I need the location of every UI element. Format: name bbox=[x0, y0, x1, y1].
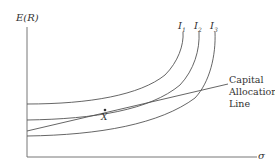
curve-label-i3: I3 bbox=[210, 21, 218, 33]
curve-label-i2: I2 bbox=[194, 21, 202, 33]
curve-label-subscript: 1 bbox=[182, 26, 186, 33]
indifference-curve-3 bbox=[27, 32, 215, 136]
indifference-curve-1 bbox=[27, 32, 183, 104]
capital-allocation-line bbox=[27, 84, 228, 131]
tangency-point bbox=[104, 109, 107, 112]
cal-label-line-3: Line bbox=[229, 98, 275, 110]
cal-label-line-1: Capital bbox=[229, 74, 275, 86]
curve-label-i1: I1 bbox=[178, 21, 186, 33]
curve-label-subscript: 2 bbox=[198, 26, 202, 33]
indifference-curve-diagram: E(R) σ I1 I2 I3 Capital Allocation Line … bbox=[0, 0, 275, 165]
cal-label-line-2: Allocation bbox=[229, 86, 275, 98]
x-axis-label: σ bbox=[258, 151, 265, 161]
curve-label-subscript: 3 bbox=[214, 26, 218, 33]
y-axis-label: E(R) bbox=[16, 13, 39, 23]
capital-allocation-line-label: Capital Allocation Line bbox=[229, 74, 275, 110]
indifference-curve-2 bbox=[27, 32, 199, 120]
tangency-point-label: X bbox=[101, 113, 107, 122]
